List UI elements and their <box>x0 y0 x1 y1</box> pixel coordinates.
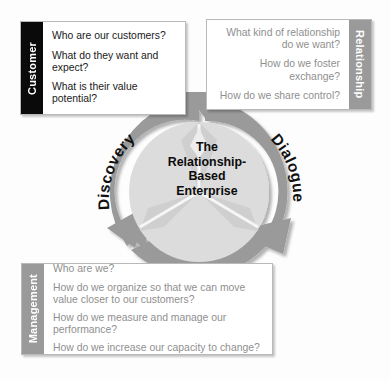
relationship-question: How do we share control? <box>213 90 340 102</box>
customer-question: What is their value potential? <box>52 81 179 105</box>
management-tab-label: Management <box>27 274 39 343</box>
management-questions: Who are we? How do we organize so that w… <box>44 264 272 354</box>
inner-disc <box>129 122 269 262</box>
customer-box: Customer Who are our customers? What do … <box>20 21 186 115</box>
relationship-wheel: Discovery Dialogue Discipline <box>95 88 303 284</box>
customer-question: What do they want and expect? <box>52 50 179 74</box>
customer-tab-label: Customer <box>26 42 38 95</box>
diagram-canvas: Discovery Dialogue Discipline The Relati… <box>0 0 390 380</box>
customer-questions: Who are our customers? What do they want… <box>43 22 185 114</box>
management-tab: Management <box>22 264 44 354</box>
management-box: Management Who are we? How do we organiz… <box>21 263 273 355</box>
management-question: How do we increase our capacity to chang… <box>53 342 266 354</box>
relationship-box: What kind of relationship do we want? Ho… <box>206 19 372 110</box>
management-question: How do we organize so that we can move v… <box>53 282 266 306</box>
customer-question: Who are our customers? <box>52 30 179 42</box>
relationship-questions: What kind of relationship do we want? Ho… <box>207 20 349 109</box>
customer-tab: Customer <box>21 22 43 114</box>
management-question: Who are we? <box>53 263 266 275</box>
relationship-question: What kind of relationship do we want? <box>213 27 340 51</box>
relationship-tab-label: Relationship <box>354 30 366 98</box>
relationship-tab: Relationship <box>349 20 371 109</box>
relationship-question: How do we foster exchange? <box>213 58 340 82</box>
management-question: How do we measure and manage our perform… <box>53 312 266 336</box>
